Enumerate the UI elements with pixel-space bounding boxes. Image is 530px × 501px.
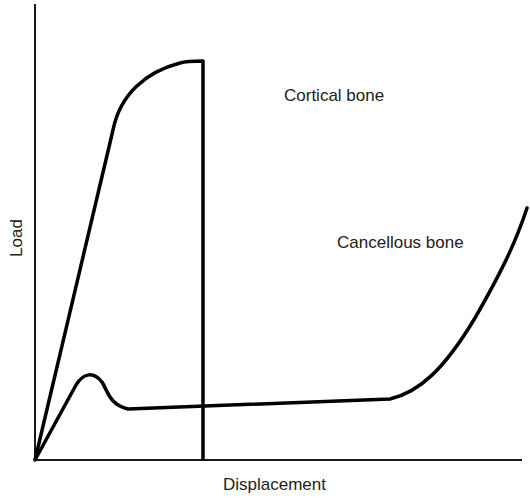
cortical-bone-annotation: Cortical bone xyxy=(284,86,384,106)
cancellous-bone-annotation: Cancellous bone xyxy=(337,233,464,253)
y-axis-label: Load xyxy=(7,219,27,257)
cortical-bone-curve xyxy=(35,61,203,460)
x-axis-label: Displacement xyxy=(223,475,326,495)
